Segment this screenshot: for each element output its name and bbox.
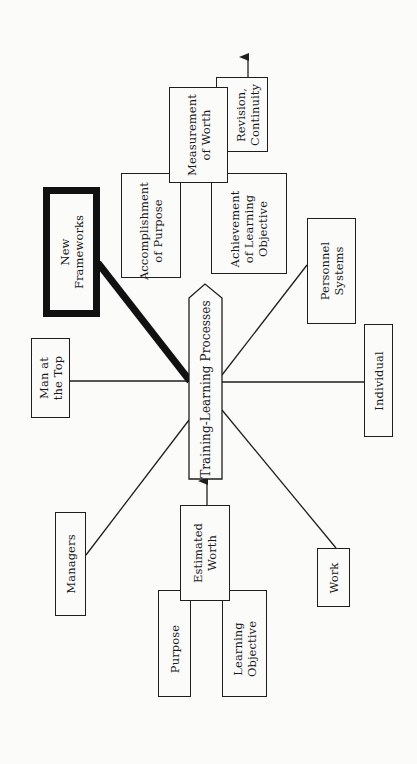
node-purpose: Purpose [158, 590, 191, 697]
node-label-line: Frameworks [72, 215, 86, 289]
node-label-line: Work [327, 562, 341, 593]
node-managers: Managers [55, 512, 86, 616]
node-label-line: Worth [205, 523, 219, 583]
node-label-line: Purpose [168, 625, 182, 673]
edge-managers [86, 420, 189, 555]
node-label-line: of Learning [242, 191, 256, 268]
node-label-line: Revision, [234, 83, 248, 145]
node-label-line: Man at [37, 356, 51, 400]
node-label-line: Objective [245, 621, 259, 677]
edge-new-frameworks [98, 263, 190, 381]
diagram-canvas: Training-Learning Processes Man at the T… [0, 0, 417, 764]
node-label-line: Managers [64, 534, 78, 593]
node-label-line: Objective [256, 191, 270, 268]
node-label-line: Continuity [248, 83, 262, 145]
center-label: Training-Learning Processes [199, 300, 213, 478]
node-achievement-of-learning-objective: Achievement of Learning Objective [211, 173, 287, 274]
node-label-line: Learning [231, 621, 245, 677]
node-label-line: Achievement [228, 191, 242, 268]
node-label-line: Estimated [191, 523, 205, 583]
node-individual: Individual [364, 324, 393, 437]
node-label-line: of Purpose [151, 182, 165, 280]
node-man-at-the-top: Man at the Top [31, 338, 70, 418]
node-learning-objective: Learning Objective [222, 590, 267, 697]
node-personnel-systems: Personnel Systems [307, 218, 356, 324]
node-measurement-of-worth: Measurement of Worth [169, 87, 228, 183]
node-training-learning-processes: Training-Learning Processes [189, 298, 222, 479]
node-new-frameworks: New Frameworks [43, 187, 100, 317]
node-label-line: New [58, 215, 72, 289]
node-label-line: Personnel [318, 242, 332, 301]
node-label-line: Systems [332, 242, 346, 301]
node-label-line: the Top [51, 356, 65, 400]
edge-work [222, 410, 336, 548]
node-accomplishment-of-purpose: Accomplishment of Purpose [121, 173, 181, 278]
node-label-line: Accomplishment [137, 182, 151, 280]
edge-personnel-systems [222, 265, 307, 375]
node-label-line: Individual [372, 351, 386, 410]
node-label-line: Measurement [185, 94, 199, 176]
node-work: Work [317, 548, 350, 607]
node-label-line: of Worth [199, 94, 213, 176]
node-estimated-worth: Estimated Worth [180, 505, 230, 601]
